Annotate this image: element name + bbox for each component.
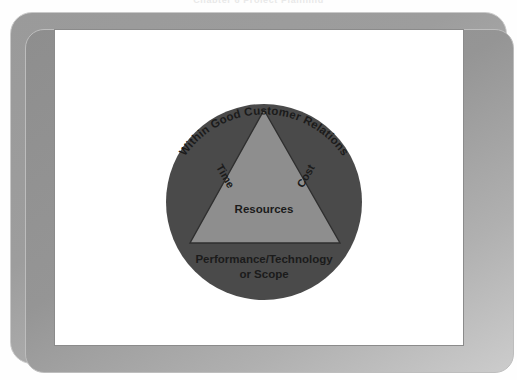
diagram-canvas	[54, 29, 464, 346]
scanned-page: Chapter 6 Project Planning Within Good C…	[0, 0, 517, 380]
running-head-text: Chapter 6 Project Planning	[0, 0, 517, 3]
